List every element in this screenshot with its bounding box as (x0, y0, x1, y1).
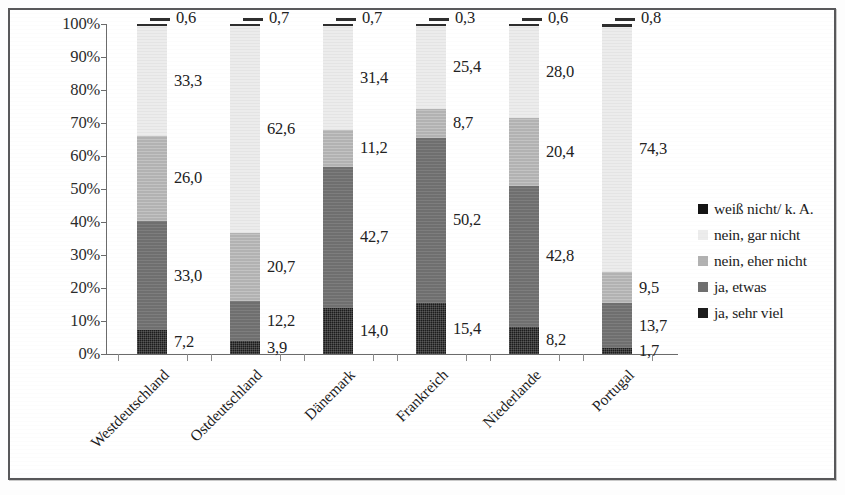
legend-item-label: ja, sehr viel (714, 304, 783, 322)
bar-segment[interactable] (323, 308, 353, 354)
bar-segment[interactable] (323, 167, 353, 308)
bar-value-label: 42,8 (546, 246, 574, 266)
bar-value-label: 0,6 (176, 8, 196, 28)
bar-value-label: 12,2 (267, 311, 295, 331)
bar-value-label: 11,2 (360, 138, 387, 158)
bar-segment[interactable] (137, 221, 167, 330)
legend-swatch-icon (698, 256, 708, 266)
bar-segment[interactable] (509, 118, 539, 185)
bar-stack[interactable] (323, 24, 353, 354)
legend-item[interactable]: weiß nicht/ k. A. (698, 196, 845, 222)
y-axis-tick-label: 50% (44, 179, 100, 199)
legend-item-label: nein, eher nicht (714, 252, 807, 270)
y-axis-tick-mark (101, 24, 107, 25)
bar-segment[interactable] (602, 303, 632, 348)
bar-value-label: 20,4 (546, 142, 574, 162)
bar-stack[interactable] (230, 24, 260, 354)
bar-stack[interactable] (416, 24, 446, 354)
x-axis-tick-mark (118, 354, 119, 361)
y-axis-tick-mark (101, 321, 107, 322)
bar-segment[interactable] (416, 303, 446, 354)
legend-item-label: ja, etwas (714, 278, 766, 296)
bar-value-label: 15,4 (453, 319, 481, 339)
bar-segment[interactable] (137, 136, 167, 222)
legend-item-label: weiß nicht/ k. A. (714, 200, 814, 218)
x-axis-tick-mark (280, 354, 281, 361)
figure-border: weiß nicht/ k. A.nein, gar nichtnein, eh… (8, 8, 836, 480)
y-axis-tick-mark (101, 123, 107, 124)
x-axis-category-label: Ostdeutschland (168, 366, 266, 464)
bar-value-label: 1,7 (639, 341, 659, 361)
y-axis-tick-label: 30% (44, 245, 100, 265)
bar-segment[interactable] (323, 130, 353, 167)
value-leader-dash (429, 18, 449, 21)
bar-value-label: 42,7 (360, 227, 388, 247)
bar-segment[interactable] (602, 272, 632, 303)
bar-segment[interactable] (230, 26, 260, 232)
x-axis-tick-mark (652, 354, 653, 361)
bar-value-label: 25,4 (453, 57, 481, 77)
y-axis-tick-mark (101, 189, 107, 190)
y-axis-tick-label: 100% (44, 14, 100, 34)
bar-segment[interactable] (416, 138, 446, 303)
bar-segment[interactable] (323, 26, 353, 130)
bar-value-label: 7,2 (174, 332, 194, 352)
x-axis-category-label: Dänemark (261, 366, 359, 464)
bar-value-label: 20,7 (267, 257, 295, 277)
bar-segment[interactable] (230, 233, 260, 301)
bar-value-label: 28,0 (546, 62, 574, 82)
bar-value-label: 0,8 (641, 8, 661, 28)
bar-value-label: 8,7 (453, 113, 473, 133)
legend-item[interactable]: ja, etwas (698, 274, 845, 300)
bar-stack[interactable] (137, 24, 167, 354)
bar-value-label: 8,2 (546, 330, 566, 350)
legend-item[interactable]: nein, gar nicht (698, 222, 845, 248)
x-axis-line (106, 354, 678, 355)
bar-value-label: 13,7 (639, 316, 667, 336)
legend-item-label: nein, gar nicht (714, 226, 800, 244)
x-axis-tick-mark (490, 354, 491, 361)
bar-segment[interactable] (137, 26, 167, 136)
bar-segment[interactable] (509, 186, 539, 327)
y-axis-tick-label: 70% (44, 113, 100, 133)
x-axis-tick-mark (211, 354, 212, 361)
bar-value-label: 33,3 (174, 71, 202, 91)
bar-segment[interactable] (416, 109, 446, 138)
y-axis-tick-mark (101, 156, 107, 157)
bar-segment[interactable] (416, 26, 446, 110)
bar-value-label: 74,3 (639, 139, 667, 159)
bar-value-label: 33,0 (174, 266, 202, 286)
bar-segment[interactable] (509, 327, 539, 354)
x-axis-tick-mark (187, 354, 188, 361)
bar-segment[interactable] (602, 348, 632, 354)
legend-swatch-icon (698, 282, 708, 292)
x-axis-tick-mark (466, 354, 467, 361)
legend-item[interactable]: ja, sehr viel (698, 300, 845, 326)
x-axis-tick-mark (559, 354, 560, 361)
bar-segment[interactable] (230, 301, 260, 341)
y-axis-tick-mark (101, 255, 107, 256)
y-axis-tick-mark (101, 288, 107, 289)
bar-segment[interactable] (509, 26, 539, 118)
legend-swatch-icon (698, 204, 708, 214)
bar-value-label: 50,2 (453, 210, 481, 230)
chart-legend: weiß nicht/ k. A.nein, gar nichtnein, eh… (698, 196, 845, 326)
y-axis-tick-label: 40% (44, 212, 100, 232)
y-axis-tick-mark (101, 222, 107, 223)
x-axis-category-label: Niederlande (447, 366, 545, 464)
legend-swatch-icon (698, 308, 708, 318)
bar-value-label: 0,3 (455, 8, 475, 28)
bar-value-label: 0,6 (548, 8, 568, 28)
bar-stack[interactable] (509, 24, 539, 354)
y-axis-tick-label: 20% (44, 278, 100, 298)
bar-segment[interactable] (230, 341, 260, 354)
bar-stack[interactable] (602, 24, 632, 354)
x-axis-category-label: Frankreich (354, 366, 452, 464)
value-leader-dash (522, 18, 542, 21)
bar-value-label: 31,4 (360, 68, 388, 88)
bar-segment[interactable] (137, 330, 167, 354)
y-axis-tick-label: 0% (44, 344, 100, 364)
bar-segment[interactable] (602, 27, 632, 272)
y-axis-tick-label: 60% (44, 146, 100, 166)
legend-item[interactable]: nein, eher nicht (698, 248, 845, 274)
